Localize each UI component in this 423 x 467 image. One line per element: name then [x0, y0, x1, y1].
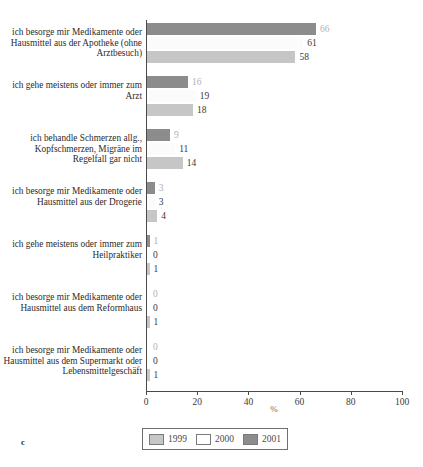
- bar-group: ich besorge mir Medikamente oder Hausmit…: [147, 340, 402, 382]
- bar-row: 14: [147, 156, 402, 170]
- x-tick-mark: [402, 391, 403, 395]
- legend-item-2000[interactable]: 2000: [196, 434, 234, 445]
- bar-row: 9: [147, 128, 402, 142]
- bar-row: 0: [147, 248, 402, 262]
- bar-1999: [147, 263, 150, 275]
- bar-value-label: 1: [154, 316, 159, 328]
- legend-swatch-icon: [149, 434, 164, 445]
- bar-2000: [147, 196, 155, 208]
- bar-1999: [147, 369, 150, 381]
- bar-row: 0: [147, 340, 402, 354]
- bar-row: 1: [147, 234, 402, 248]
- bar-2000: [147, 37, 303, 49]
- bar-value-label: 3: [159, 182, 164, 194]
- bar-row: 16: [147, 75, 402, 89]
- bar-value-label: 66: [320, 23, 330, 35]
- bar-1999: [147, 51, 295, 63]
- bar-value-label: 9: [174, 129, 179, 141]
- x-tick-mark: [300, 391, 301, 395]
- bar-chart-figure: 020406080100 ich besorge mir Medikamente…: [0, 0, 423, 467]
- legend-label: 2001: [262, 434, 281, 444]
- bar-row: 3: [147, 195, 402, 209]
- cut-off-title-remnant: [110, 0, 340, 2]
- bar-row: 0: [147, 354, 402, 368]
- bar-value-label: 61: [307, 37, 317, 49]
- legend-label: 1999: [168, 434, 187, 444]
- legend-item-2001[interactable]: 2001: [243, 434, 281, 445]
- bar-group: ich gehe meistens oder immer zum Heilpra…: [147, 234, 402, 276]
- legend-label: 2000: [215, 434, 234, 444]
- bar-value-label: 0: [153, 302, 158, 314]
- bar-2001: [147, 76, 188, 88]
- bar-row: 1: [147, 368, 402, 382]
- category-label: ich besorge mir Medikamente oder Hausmit…: [0, 186, 142, 207]
- bar-2001: [147, 182, 155, 194]
- bar-value-label: 14: [187, 157, 197, 169]
- bar-2000: [147, 143, 175, 155]
- bar-1999: [147, 210, 157, 222]
- bar-value-label: 1: [154, 369, 159, 381]
- bar-1999: [147, 104, 193, 116]
- category-label: ich gehe meistens oder immer zum Heilpra…: [0, 239, 142, 260]
- bar-row: 11: [147, 142, 402, 156]
- bar-group: ich behandle Schmerzen allg., Kopfschmer…: [147, 128, 402, 170]
- bar-value-label: 0: [153, 355, 158, 367]
- bar-row: 58: [147, 50, 402, 64]
- x-axis-label: %: [146, 404, 402, 414]
- x-axis-line: [146, 391, 402, 392]
- x-tick-mark: [197, 391, 198, 395]
- bar-2001: [147, 235, 150, 247]
- bar-group: ich besorge mir Medikamente oder Hausmit…: [147, 287, 402, 329]
- bar-value-label: 0: [153, 341, 158, 353]
- bar-value-label: 3: [159, 196, 164, 208]
- bar-group: ich gehe meistens oder immer zum Arzt161…: [147, 75, 402, 117]
- x-tick-mark: [146, 391, 147, 395]
- bar-row: 0: [147, 287, 402, 301]
- bar-value-label: 58: [299, 51, 309, 63]
- figure-caption-letter: c: [21, 437, 25, 447]
- bar-1999: [147, 157, 183, 169]
- bar-2001: [147, 23, 316, 35]
- bar-row: 3: [147, 181, 402, 195]
- bar-2001: [147, 129, 170, 141]
- x-tick-mark: [351, 391, 352, 395]
- category-label: ich besorge mir Medikamente oder Hausmit…: [0, 27, 142, 59]
- bar-row: 0: [147, 301, 402, 315]
- category-label: ich besorge mir Medikamente oder Hausmit…: [0, 292, 142, 313]
- chart-legend: 199920002001: [142, 428, 288, 450]
- bar-row: 4: [147, 209, 402, 223]
- bar-row: 66: [147, 22, 402, 36]
- bar-row: 1: [147, 315, 402, 329]
- category-label: ich behandle Schmerzen allg., Kopfschmer…: [0, 133, 142, 165]
- bar-value-label: 19: [200, 90, 210, 102]
- bar-2000: [147, 90, 196, 102]
- bar-value-label: 1: [154, 263, 159, 275]
- bar-value-label: 4: [161, 210, 166, 222]
- bar-group: ich besorge mir Medikamente oder Hausmit…: [147, 22, 402, 64]
- bar-value-label: 1: [154, 235, 159, 247]
- bar-value-label: 0: [153, 249, 158, 261]
- legend-swatch-icon: [196, 434, 211, 445]
- category-label: ich besorge mir Medikamente oder Hausmit…: [0, 345, 142, 377]
- bar-1999: [147, 316, 150, 328]
- bar-row: 1: [147, 262, 402, 276]
- bar-value-label: 16: [192, 76, 202, 88]
- bar-row: 19: [147, 89, 402, 103]
- bar-row: 18: [147, 103, 402, 117]
- legend-item-1999[interactable]: 1999: [149, 434, 187, 445]
- legend-swatch-icon: [243, 434, 258, 445]
- bar-value-label: 11: [179, 143, 188, 155]
- bar-group: ich besorge mir Medikamente oder Hausmit…: [147, 181, 402, 223]
- plot-area: 020406080100 ich besorge mir Medikamente…: [146, 20, 402, 391]
- bar-row: 61: [147, 36, 402, 50]
- x-tick-mark: [248, 391, 249, 395]
- bar-value-label: 0: [153, 288, 158, 300]
- bar-value-label: 18: [197, 104, 207, 116]
- category-label: ich gehe meistens oder immer zum Arzt: [0, 80, 142, 101]
